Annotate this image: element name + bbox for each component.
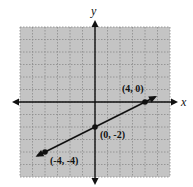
coordinate-plane: (4, 0)(0, -2)(-4, -4) x y (0, 0, 193, 187)
y-axis-down-arrow-icon (92, 178, 99, 185)
x-axis-right-arrow-icon (171, 99, 178, 106)
x-axis-label: x (180, 95, 187, 109)
point-marker (142, 99, 148, 105)
point-marker (42, 149, 48, 155)
point-marker (92, 124, 98, 130)
y-axis-label: y (90, 4, 97, 18)
x-axis-left-arrow-icon (12, 99, 19, 106)
point-label: (4, 0) (122, 83, 144, 95)
y-axis-up-arrow-icon (92, 20, 99, 27)
point-label: (-4, -4) (50, 155, 78, 167)
point-label: (0, -2) (100, 129, 125, 141)
